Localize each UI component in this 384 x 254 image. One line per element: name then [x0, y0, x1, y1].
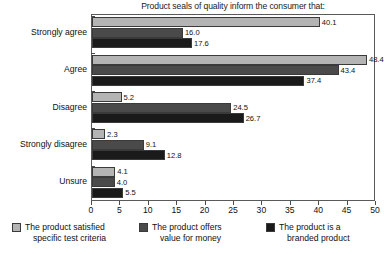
bar-value-label: 16.0	[185, 28, 200, 38]
bar-value-label: 43.4	[341, 66, 356, 76]
category-label: Disagree	[0, 102, 87, 112]
x-tick-label: 0	[79, 205, 103, 215]
bar-value-label: 24.5	[233, 103, 248, 113]
legend-swatch-icon	[139, 223, 148, 232]
category-tick	[91, 16, 95, 17]
category-tick	[91, 128, 95, 129]
bar	[92, 129, 105, 139]
legend-label: The product is abranded product	[279, 222, 350, 244]
bar-value-label: 26.7	[246, 114, 261, 124]
category-tick	[91, 166, 95, 167]
bar-value-label: 37.4	[306, 76, 321, 86]
chart-legend: The product satisfiedspecific test crite…	[0, 222, 384, 254]
bar	[92, 76, 304, 86]
category-label: Strongly agree	[0, 27, 87, 37]
bar-value-label: 9.1	[146, 140, 157, 150]
x-tick-label: 40	[306, 205, 330, 215]
x-tick-label: 30	[249, 205, 273, 215]
x-tick-label: 20	[193, 205, 217, 215]
bar	[92, 140, 144, 150]
bar	[92, 38, 192, 48]
category-label: Agree	[0, 64, 87, 74]
bar	[92, 92, 122, 102]
bar-value-label: 4.0	[117, 178, 128, 188]
bar-value-label: 12.8	[167, 151, 182, 161]
legend-swatch-icon	[266, 223, 275, 232]
category-tick	[91, 53, 95, 54]
bar	[92, 167, 115, 177]
bar-value-label: 17.6	[194, 39, 209, 49]
bar-value-label: 2.3	[107, 130, 118, 140]
bar	[92, 150, 165, 160]
legend-label: The product offersvalue for money	[152, 222, 222, 244]
legend-swatch-icon	[12, 223, 21, 232]
bar	[92, 17, 320, 27]
chart-title: Product seals of quality inform the cons…	[91, 1, 375, 11]
legend-label: The product satisfiedspecific test crite…	[25, 222, 106, 244]
bar	[92, 113, 244, 123]
x-tick-label: 5	[107, 205, 131, 215]
x-tick-label: 15	[164, 205, 188, 215]
bar	[92, 188, 123, 198]
bar-value-label: 40.1	[322, 18, 337, 28]
bar-chart: Product seals of quality inform the cons…	[0, 0, 384, 254]
bar	[92, 103, 231, 113]
bar-value-label: 48.4	[369, 55, 384, 65]
legend-item[interactable]: The product satisfiedspecific test crite…	[12, 222, 106, 244]
bar	[92, 177, 115, 187]
bar-value-label: 5.2	[124, 93, 135, 103]
x-tick-label: 25	[221, 205, 245, 215]
bar-value-label: 4.1	[117, 167, 128, 177]
legend-item[interactable]: The product offersvalue for money	[139, 222, 222, 244]
x-tick-label: 35	[278, 205, 302, 215]
x-tick-label: 10	[136, 205, 160, 215]
x-tick-label: 45	[335, 205, 359, 215]
category-label: Strongly disagree	[0, 139, 87, 149]
bar	[92, 28, 183, 38]
category-label: Unsure	[0, 176, 87, 186]
bar	[92, 65, 339, 75]
legend-item[interactable]: The product is abranded product	[266, 222, 350, 244]
bar-value-label: 5.5	[125, 188, 136, 198]
x-tick-label: 50	[363, 205, 384, 215]
bar	[92, 55, 367, 65]
category-tick	[91, 91, 95, 92]
